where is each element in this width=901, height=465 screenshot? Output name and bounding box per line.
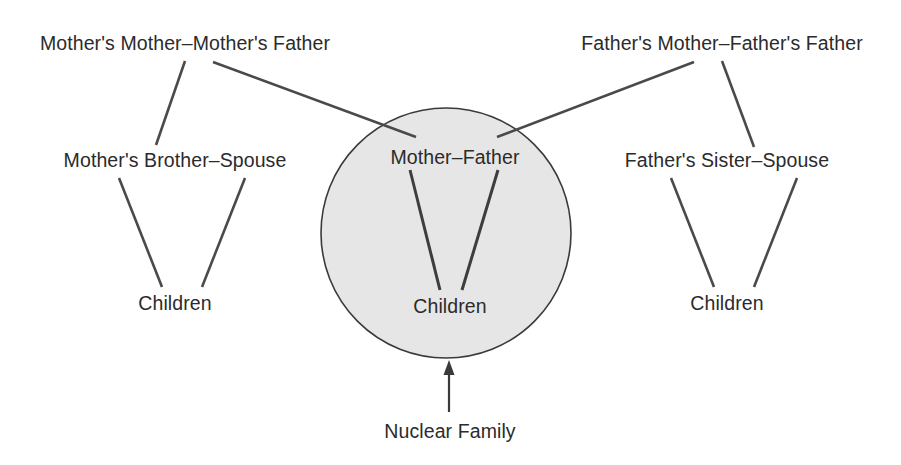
label-maternal-grandparents: Mother's Mother–Mother's Father — [40, 32, 331, 54]
label-mothers-brother-spouse: Mother's Brother–Spouse — [64, 149, 287, 171]
kinship-diagram-canvas: Mother's Mother–Mother's Father Father's… — [0, 0, 901, 465]
label-nuclear-family: Nuclear Family — [384, 420, 516, 442]
edge-mothers-brother-to-children-left — [119, 178, 162, 287]
edge-mothers-brother-to-children-right — [202, 178, 245, 287]
edge-maternal-grandparents-to-parents — [213, 62, 416, 137]
label-children-center: Children — [413, 295, 486, 317]
edge-paternal-grandparents-to-fathers-sister — [722, 61, 754, 147]
label-fathers-sister-spouse: Father's Sister–Spouse — [625, 149, 829, 171]
edge-maternal-grandparents-to-mothers-brother — [156, 61, 185, 145]
kinship-diagram: Mother's Mother–Mother's Father Father's… — [0, 0, 901, 465]
up-arrow-icon — [444, 360, 455, 375]
label-mother-father: Mother–Father — [390, 146, 520, 168]
edge-fathers-sister-to-children-right — [754, 178, 797, 287]
edge-fathers-sister-to-children-left — [671, 178, 714, 287]
edge-paternal-grandparents-to-parents — [497, 62, 694, 137]
label-children-right: Children — [690, 292, 763, 314]
label-children-left: Children — [138, 292, 211, 314]
label-paternal-grandparents: Father's Mother–Father's Father — [581, 32, 863, 54]
